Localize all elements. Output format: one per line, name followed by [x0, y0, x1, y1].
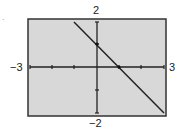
y-intercept-point — [95, 42, 98, 45]
xmin-label: −3 — [10, 62, 23, 73]
ymax-label: 2 — [93, 5, 99, 16]
graph-window — [0, 0, 177, 130]
x-intercept-point — [117, 65, 120, 68]
ymin-label: −2 — [89, 118, 102, 129]
xmax-label: 3 — [169, 62, 175, 73]
